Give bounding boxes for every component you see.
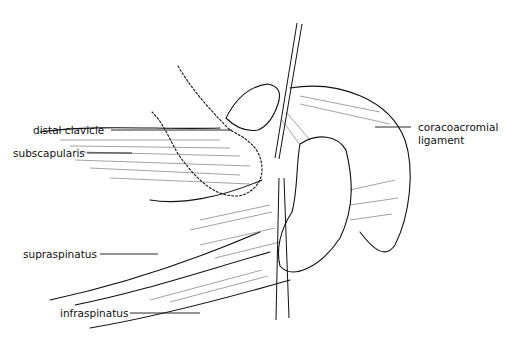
illustration [0, 0, 512, 344]
label-subscapularis: subscapularis [13, 147, 85, 159]
shading-hatching [60, 96, 398, 302]
leader-lines [87, 127, 411, 313]
clavicle-outline [152, 66, 262, 196]
label-coracoacromial: coracoacromial [418, 121, 498, 133]
anatomy-diagram: distal clavicle subscapularis coracoacro… [0, 0, 512, 344]
muscle-outline-lower2 [75, 252, 270, 305]
label-supraspinatus: supraspinatus [23, 248, 97, 260]
acromion-outline [226, 84, 280, 131]
muscle-outline-left [150, 180, 262, 202]
surgical-instrument [275, 23, 302, 320]
label-ligament: ligament [418, 134, 464, 146]
label-infraspinatus: infraspinatus [60, 307, 128, 319]
muscle-outline-lower1 [50, 232, 260, 300]
muscle-outline-lower3 [90, 280, 290, 328]
label-distal-clavicle: distal clavicle [33, 124, 104, 136]
coracoid-outline [279, 137, 352, 272]
